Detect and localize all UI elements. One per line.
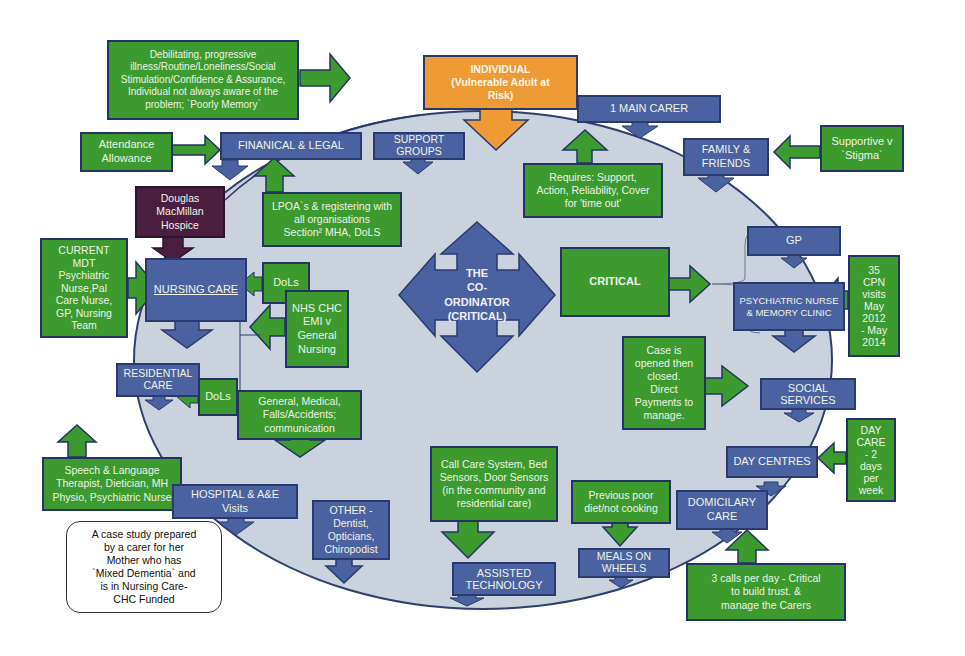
support-groups-box: SUPPORT GROUPS (373, 132, 465, 160)
requires-support-box: Requires: Support, Action, Reliability, … (523, 163, 663, 218)
other-services-box: OTHER - Dentist, Opticians, Chiropodist (312, 500, 390, 560)
case-study-note: A case study prepared by a carer for her… (66, 521, 222, 613)
douglas-macmillan-hospice-box: Douglas MacMillan Hospice (135, 186, 225, 238)
nhs-chc-box: NHS CHC EMI v General Nursing (285, 290, 349, 368)
lpoa-registering-box: LPOA`s & registering with all organisati… (262, 192, 402, 247)
general-medical-box: General, Medical, Falls/Accidents; commu… (237, 390, 362, 440)
individual-down-arrow-icon (464, 108, 528, 150)
meals-on-wheels-box: MEALS ON WHEELS (578, 548, 670, 578)
call-care-system-box: Call Care System, Bed Sensors, Door Sens… (430, 446, 558, 522)
financial-legal-box: FINANICAL & LEGAL (220, 132, 362, 160)
three-calls-per-day-box: 3 calls per day - Critical to build trus… (686, 563, 846, 621)
care-diagram: INDIVIDUAL (Vulnerable Adult at Risk) De… (0, 0, 965, 656)
previous-poor-diet-box: Previous poor diet/not cooking (571, 480, 671, 524)
family-friends-box: FAMILY & FRIENDS (683, 138, 769, 176)
assisted-technology-box: ASSISTED TECHNOLOGY (452, 562, 556, 596)
social-services-box: SOCIAL SERVICES (760, 378, 856, 410)
residential-care-box: RESIDENTIAL CARE (116, 363, 200, 397)
main-carer-box: 1 MAIN CARER (577, 95, 721, 123)
gp-box: GP (747, 226, 841, 256)
day-care-box: DAY CARE - 2 days per week (846, 418, 896, 502)
dols-box-2: DoLs (198, 378, 238, 416)
nursing-care-box: NURSING CARE (145, 258, 247, 322)
cpn-visits-box: 35 CPN visits May 2012 - May 2014 (848, 255, 900, 357)
individual-box: INDIVIDUAL (Vulnerable Adult at Risk) (423, 55, 578, 110)
domiciliary-care-box: DOMICILARY CARE (676, 490, 768, 530)
psychiatric-nurse-memory-clinic-box: PSYCHIATRIC NURSE & MEMORY CLINIC (733, 282, 845, 331)
critical-box: CRITICAL (560, 247, 670, 317)
day-centres-box: DAY CENTRES (726, 446, 818, 478)
current-mdt-box: CURRENT MDT Psychiatric Nurse,Pal Care N… (40, 238, 128, 338)
speech-language-box: Speech & Language Therapist, Dietician, … (42, 457, 182, 511)
debilitating-illness-box: Debilitating, progressive illness/Routin… (107, 40, 299, 120)
coordinator-hub-label: THE CO- ORDINATOR (CRITICAL) (437, 266, 517, 323)
supportive-stigma-box: Supportive v `Stigma` (820, 125, 904, 172)
hospital-ae-box: HOSPITAL & A&E Visits (172, 484, 298, 519)
attendance-allowance-box: Attendance Allowance (80, 132, 173, 172)
case-opened-box: Case is opened then closed. Direct Payme… (622, 336, 706, 430)
